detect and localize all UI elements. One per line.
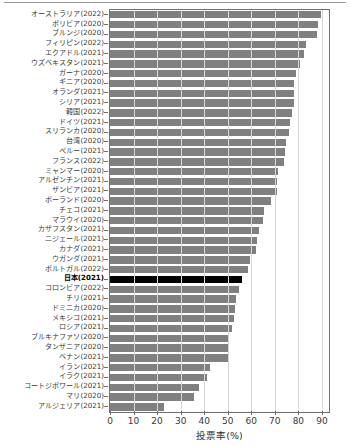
bar-row — [110, 118, 329, 128]
x-tick-label: 0 — [107, 416, 113, 426]
category-tick — [104, 308, 108, 309]
gridline — [251, 10, 252, 412]
category-label: チリ(2021) — [0, 294, 104, 302]
bar — [110, 148, 285, 155]
category-tick — [104, 102, 108, 103]
category-tick — [104, 200, 108, 201]
category-tick — [104, 73, 108, 74]
category-label: ニジェール(2021) — [0, 235, 104, 243]
bar-row — [110, 59, 329, 69]
bar-row — [110, 30, 329, 40]
category-label: ブルキナファソ(2020) — [0, 333, 104, 341]
x-tick-label: 80 — [293, 416, 304, 426]
bar-row — [110, 177, 329, 187]
bar — [110, 344, 228, 351]
bar — [110, 99, 294, 106]
category-tick — [104, 112, 108, 113]
bar — [110, 237, 257, 244]
category-label: エクアドル(2021) — [0, 49, 104, 57]
category-label: ペルー(2021) — [0, 147, 104, 155]
bar-row — [110, 206, 329, 216]
category-tick — [104, 83, 108, 84]
category-label: 韓国(2022) — [0, 108, 104, 116]
bar-row — [110, 255, 329, 265]
bar — [110, 109, 292, 116]
bar-row — [110, 196, 329, 206]
bar-row — [110, 392, 329, 402]
category-tick — [104, 43, 108, 44]
category-label: ウガンダ(2021) — [0, 255, 104, 263]
category-tick — [104, 386, 108, 387]
category-label: コートジボワール(2021) — [0, 382, 104, 390]
category-label: チェコ(2021) — [0, 206, 104, 214]
category-label: ガーナ(2020) — [0, 69, 104, 77]
category-tick — [104, 347, 108, 348]
bar — [110, 90, 294, 97]
bar-row — [110, 285, 329, 295]
category-tick — [104, 318, 108, 319]
bar-row — [110, 236, 329, 246]
bar — [110, 119, 290, 126]
x-tick-label: 70 — [269, 416, 280, 426]
bar — [110, 354, 228, 361]
x-tick-label: 50 — [222, 416, 233, 426]
category-tick — [104, 63, 108, 64]
category-label: ドミニカ(2020) — [0, 304, 104, 312]
bar-row — [110, 373, 329, 383]
bar-row — [110, 245, 329, 255]
category-tick — [104, 181, 108, 182]
x-tick-label: 20 — [151, 416, 162, 426]
x-tick-mark — [157, 411, 158, 415]
category-tick — [104, 239, 108, 240]
bar-row — [110, 108, 329, 118]
category-tick — [104, 377, 108, 378]
gridline — [228, 10, 229, 412]
x-tick-mark — [181, 411, 182, 415]
bar-row — [110, 39, 329, 49]
category-tick — [104, 367, 108, 368]
bar-row — [110, 383, 329, 393]
bar — [110, 227, 259, 234]
bar — [110, 11, 321, 18]
x-tick-label: 40 — [198, 416, 209, 426]
category-tick — [104, 337, 108, 338]
x-tick-mark — [110, 411, 111, 415]
category-tick — [104, 249, 108, 250]
category-tick — [104, 259, 108, 260]
bar-row — [110, 275, 329, 285]
x-tick-label: 30 — [175, 416, 186, 426]
category-tick — [104, 220, 108, 221]
plot-area — [109, 9, 330, 413]
bar — [110, 403, 164, 410]
bar-row — [110, 324, 329, 334]
bar-row — [110, 265, 329, 275]
category-label: メキシコ(2021) — [0, 314, 104, 322]
category-tick — [104, 396, 108, 397]
category-label: タンザニア(2020) — [0, 343, 104, 351]
category-label: アルゼンチン(2021) — [0, 176, 104, 184]
category-label: オーストラリア(2022) — [0, 10, 104, 18]
category-label: ブルンジ(2020) — [0, 29, 104, 37]
x-tick-label: 10 — [128, 416, 139, 426]
bar-row — [110, 79, 329, 89]
category-tick — [104, 298, 108, 299]
bar-row — [110, 157, 329, 167]
bar — [110, 70, 296, 77]
category-label: イラク(2021) — [0, 372, 104, 380]
category-tick — [104, 14, 108, 15]
category-label: スリランカ(2020) — [0, 127, 104, 135]
bar — [110, 80, 294, 87]
bar — [110, 139, 286, 146]
x-tick-mark — [204, 411, 205, 415]
bar — [110, 335, 228, 342]
bar-row — [110, 137, 329, 147]
bar-row — [110, 186, 329, 196]
category-label: ギニア(2020) — [0, 78, 104, 86]
bar — [110, 315, 234, 322]
bar-row — [110, 353, 329, 363]
bar-row — [110, 343, 329, 353]
category-tick — [104, 269, 108, 270]
x-tick-mark — [134, 411, 135, 415]
x-tick-mark — [322, 411, 323, 415]
category-label: カザフスタン(2021) — [0, 225, 104, 233]
